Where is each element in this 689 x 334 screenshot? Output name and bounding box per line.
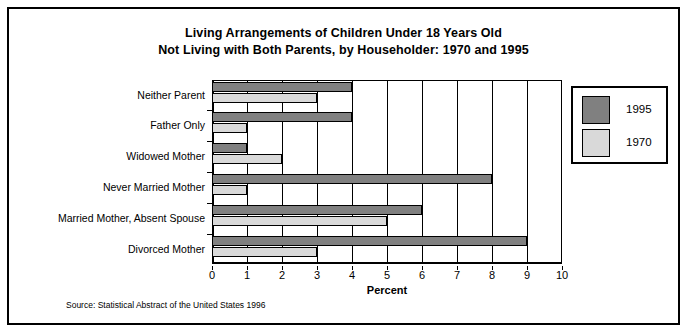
- legend-label-1995: 1995: [626, 103, 652, 115]
- ycat-label-neither-parent: Neither Parent: [137, 89, 205, 101]
- chart-legend: 1995 1970: [571, 86, 668, 164]
- bar-never-married-mother-1995: [212, 174, 492, 184]
- ycat-label-widowed-mother: Widowed Mother: [126, 150, 205, 162]
- legend-swatch-1970: [582, 129, 610, 157]
- bar-divorced-mother-1995: [212, 236, 527, 246]
- xtick-label-0: 0: [209, 269, 215, 281]
- xtick-label-4: 4: [349, 269, 355, 281]
- bar-group-divorced-mother: Divorced Mother: [212, 234, 562, 264]
- chart-title-line-1: Living Arrangements of Children Under 18…: [9, 25, 678, 42]
- bar-divorced-mother-1970: [212, 247, 317, 257]
- bar-group-neither-parent: Neither Parent: [212, 80, 562, 110]
- xtick-label-10: 10: [556, 269, 568, 281]
- xtick-label-5: 5: [384, 269, 390, 281]
- plot-area: 0 1 2 3 4 5 6 7 8 9 10 Percent Neither P…: [212, 80, 562, 264]
- ycat-label-father-only: Father Only: [150, 119, 205, 131]
- bar-group-father-only: Father Only: [212, 110, 562, 141]
- bar-married-mother-absent-spouse-1995: [212, 205, 422, 215]
- chart-title-line-2: Not Living with Both Parents, by Househo…: [9, 42, 678, 59]
- bar-group-married-mother-absent-spouse: Married Mother, Absent Spouse: [212, 203, 562, 234]
- bar-group-never-married-mother: Never Married Mother: [212, 172, 562, 203]
- bar-widowed-mother-1995: [212, 143, 247, 153]
- bar-married-mother-absent-spouse-1970: [212, 216, 387, 226]
- xtick-label-6: 6: [419, 269, 425, 281]
- bar-father-only-1995: [212, 112, 352, 122]
- ycat-label-divorced-mother: Divorced Mother: [128, 243, 205, 255]
- chart-title: Living Arrangements of Children Under 18…: [9, 25, 678, 59]
- xtick-label-7: 7: [454, 269, 460, 281]
- bar-father-only-1970: [212, 123, 247, 133]
- source-note: Source: Statistical Abstract of the Unit…: [66, 300, 265, 310]
- xtick-label-3: 3: [314, 269, 320, 281]
- bar-never-married-mother-1970: [212, 185, 247, 195]
- bar-neither-parent-1970: [212, 93, 317, 103]
- xtick-label-8: 8: [489, 269, 495, 281]
- xtick-label-9: 9: [524, 269, 530, 281]
- x-axis-title: Percent: [212, 284, 562, 296]
- ycat-label-never-married-mother: Never Married Mother: [103, 181, 205, 193]
- legend-label-1970: 1970: [626, 136, 652, 148]
- legend-swatch-1995: [582, 96, 610, 124]
- chart-frame: Living Arrangements of Children Under 18…: [7, 7, 680, 325]
- bar-neither-parent-1995: [212, 82, 352, 92]
- bar-group-widowed-mother: Widowed Mother: [212, 141, 562, 172]
- ycat-label-married-mother-absent-spouse: Married Mother, Absent Spouse: [58, 212, 205, 224]
- bar-widowed-mother-1970: [212, 154, 282, 164]
- xtick-label-1: 1: [244, 269, 250, 281]
- xtick-label-2: 2: [279, 269, 285, 281]
